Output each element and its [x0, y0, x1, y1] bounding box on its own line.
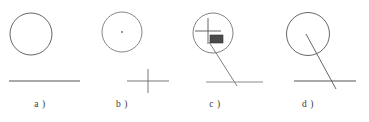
panel-a-label: a )	[20, 100, 60, 110]
panel-a-circle	[10, 13, 52, 55]
panel-d-label: d )	[288, 100, 328, 110]
panel-d-group	[287, 13, 357, 90]
panel-b-group	[102, 12, 169, 93]
panel-c-group	[193, 13, 263, 86]
panel-b-center-dot-icon	[121, 31, 123, 33]
panel-a-group	[9, 13, 80, 81]
panel-c-circle	[193, 13, 233, 53]
panel-d-circle	[287, 13, 330, 56]
panel-c-label: c )	[195, 100, 235, 110]
figure-panel-group: a ) b ) c ) d )	[0, 0, 369, 122]
panel-c-leader-line	[209, 42, 237, 86]
panel-b-label: b )	[102, 100, 142, 110]
panel-c-highlight-rectangle	[210, 35, 223, 43]
